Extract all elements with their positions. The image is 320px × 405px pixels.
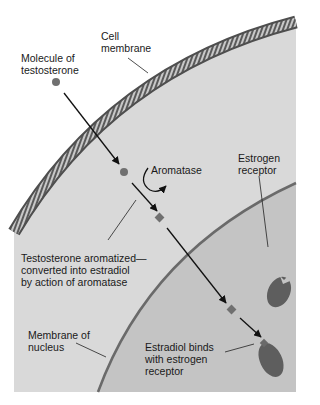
testosterone-molecule-inside	[120, 168, 128, 176]
label-estradiol-binds: Estradiol binds with estrogen receptor	[145, 341, 214, 377]
label-cell-membrane: Cell membrane	[101, 30, 151, 54]
testosterone-molecule-outside	[52, 78, 60, 86]
leader-cell-membrane	[128, 58, 148, 73]
label-aromatase: Aromatase	[151, 164, 202, 176]
label-testosterone: Molecule of testosterone	[21, 52, 79, 76]
label-aromatized: Testosterone aromatized— converted into …	[21, 252, 146, 288]
label-nucleus-membrane: Membrane of nucleus	[28, 329, 90, 353]
label-estrogen-receptor: Estrogen receptor	[238, 152, 280, 176]
